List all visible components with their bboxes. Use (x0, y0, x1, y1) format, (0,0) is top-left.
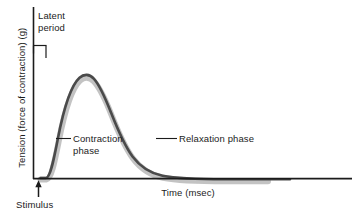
muscle-twitch-figure: Tension (force of contraction) (g) Time … (0, 0, 355, 220)
x-axis-title: Time (msec) (133, 187, 243, 199)
stimulus-label: Stimulus (16, 199, 53, 211)
stimulus-arrow-icon (35, 180, 41, 197)
twitch-curve-shadow (41, 78, 269, 182)
contraction-phase-label: Contraction phase (73, 133, 123, 156)
latent-period-label: Latent period (38, 10, 65, 33)
relaxation-phase-label: Relaxation phase (179, 133, 254, 145)
y-axis-title: Tension (force of contraction) (g) (16, 18, 28, 178)
twitch-curve (41, 75, 291, 179)
latent-period-bracket (33, 46, 47, 59)
